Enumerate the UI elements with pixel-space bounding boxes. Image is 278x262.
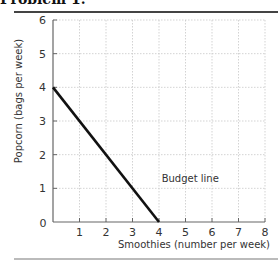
x-tick-label: 4 (156, 226, 163, 239)
x-axis-label: Smoothies (number per week) (118, 239, 270, 250)
bottom-rule (14, 258, 278, 260)
y-tick-label: 2 (39, 149, 46, 162)
y-axis-label: Popcorn (bags per week) (13, 39, 24, 163)
grid-lines (53, 20, 265, 222)
x-tick-label: 8 (262, 226, 269, 239)
y-tick-label: 4 (39, 81, 46, 94)
y-tick-label: 5 (39, 48, 46, 61)
x-tick-label: 6 (209, 226, 216, 239)
budget-line-chart: 012345678123456 Budget line Smoothies (n… (0, 0, 278, 262)
budget-line-annotation: Budget line (162, 173, 219, 184)
x-tick-label: 7 (235, 226, 242, 239)
y-tick-label: 6 (39, 14, 46, 27)
y-tick-label: 3 (39, 115, 46, 128)
tick-labels: 012345678123456 (39, 14, 269, 239)
y-tick-label: 1 (39, 182, 46, 195)
x-tick-label: 1 (76, 226, 83, 239)
x-tick-label: 3 (129, 226, 136, 239)
x-tick-label: 0 (40, 217, 47, 230)
x-tick-label: 5 (182, 226, 189, 239)
x-tick-label: 2 (103, 226, 110, 239)
